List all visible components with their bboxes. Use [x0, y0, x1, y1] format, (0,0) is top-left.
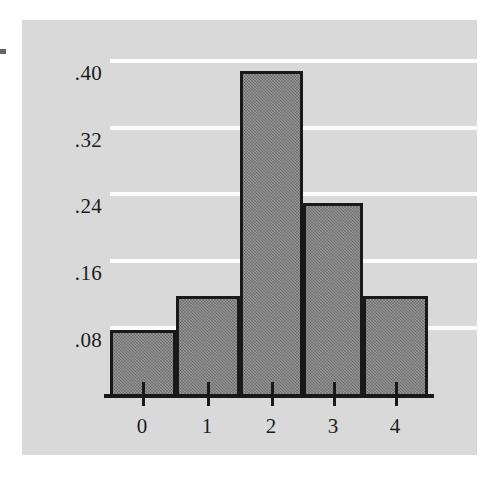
ytick-label-0.32: .32: [42, 128, 102, 153]
x-axis-line: [104, 394, 434, 398]
ytick-label-0.24: .24: [42, 194, 102, 219]
xtick-label-4: 4: [375, 414, 415, 439]
histogram-plot: .40 .32 .24 .16 .08 0 1 2 3 4: [22, 20, 477, 455]
xtick-4: [395, 382, 398, 406]
xtick-label-2: 2: [251, 414, 291, 439]
figure-panel: .40 .32 .24 .16 .08 0 1 2 3 4: [22, 20, 477, 455]
histogram-bar-1: [176, 296, 240, 396]
xtick-2: [271, 382, 274, 406]
gridline-0.40: [110, 59, 477, 63]
xtick-label-3: 3: [313, 414, 353, 439]
histogram-bar-2: [240, 71, 303, 396]
ytick-label-0.40: .40: [42, 61, 102, 86]
xtick-3: [333, 382, 336, 406]
xtick-0: [142, 382, 145, 406]
xtick-1: [207, 382, 210, 406]
histogram-bar-3: [303, 203, 363, 396]
histogram-bar-4: [363, 296, 428, 396]
scan-artifact-speck: [0, 49, 6, 54]
ytick-label-0.16: .16: [42, 261, 102, 286]
xtick-label-1: 1: [187, 414, 227, 439]
xtick-label-0: 0: [122, 414, 162, 439]
ytick-label-0.08: .08: [42, 328, 102, 353]
scanned-page: .40 .32 .24 .16 .08 0 1 2 3 4: [0, 0, 490, 484]
